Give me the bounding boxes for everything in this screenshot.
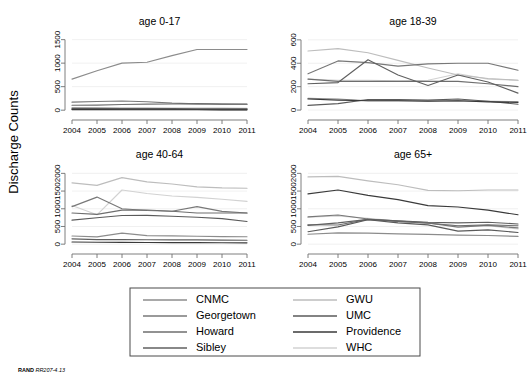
x-tick-label: 2011 (509, 126, 527, 135)
x-tick-label: 2004 (299, 260, 317, 269)
x-tick-label: 2004 (63, 260, 81, 269)
x-tick-label: 2008 (163, 260, 181, 269)
y-tick-label: 0 (53, 107, 62, 112)
y-tick-label: 2000 (53, 164, 62, 182)
legend-border (130, 288, 420, 356)
x-tick-label: 2005 (329, 260, 347, 269)
panel-title: age 40-64 (136, 148, 183, 160)
x-tick-label: 2010 (479, 260, 497, 269)
y-tick-label: 0 (289, 241, 298, 246)
x-tick-label: 2008 (163, 126, 181, 135)
y-tick-label: 1000 (53, 199, 62, 217)
x-tick-label: 2006 (359, 126, 377, 135)
x-tick-label: 2005 (88, 126, 106, 135)
x-tick-label: 2007 (389, 126, 407, 135)
x-tick-label: 2007 (138, 260, 156, 269)
legend-label-cnmc: CNMC (196, 293, 229, 305)
y-tick-label: 1500 (53, 30, 62, 48)
x-tick-label: 2005 (88, 260, 106, 269)
x-tick-label: 2008 (419, 126, 437, 135)
x-tick-label: 2009 (188, 126, 206, 135)
series-line-umc (72, 108, 247, 109)
y-tick-label: 400 (289, 56, 298, 70)
x-tick-label: 2004 (63, 126, 81, 135)
x-tick-label: 2008 (419, 260, 437, 269)
legend-label-gwu: GWU (346, 293, 373, 305)
legend-label-providence: Providence (346, 325, 401, 337)
x-tick-label: 2006 (113, 260, 131, 269)
y-tick-label: 1500 (53, 182, 62, 200)
x-tick-label: 2011 (238, 126, 256, 135)
y-tick-label: 200 (289, 79, 298, 93)
legend-label-howard: Howard (196, 325, 234, 337)
legend-label-georgetown: Georgetown (196, 309, 256, 321)
x-tick-label: 2010 (213, 126, 231, 135)
panel-title: age 18-39 (389, 15, 436, 27)
x-tick-label: 2007 (389, 260, 407, 269)
y-tick-label: 1000 (289, 199, 298, 217)
discharge-counts-figure: Discharge Counts age 0-17050010001500200… (0, 0, 531, 385)
x-tick-label: 2009 (188, 260, 206, 269)
y-tick-label: 0 (289, 107, 298, 112)
x-tick-label: 2011 (509, 260, 527, 269)
y-tick-label: 500 (53, 219, 62, 233)
y-tick-label: 2000 (289, 164, 298, 182)
x-tick-label: 2007 (138, 126, 156, 135)
y-tick-label: 1500 (289, 182, 298, 200)
legend: CNMCGeorgetownHowardSibleyGWUUMCProviden… (130, 288, 420, 356)
x-tick-label: 2009 (449, 126, 467, 135)
legend-label-umc: UMC (346, 309, 371, 321)
credit-brand: RAND (18, 367, 34, 373)
legend-label-sibley: Sibley (196, 341, 226, 353)
x-tick-label: 2004 (299, 126, 317, 135)
x-tick-label: 2011 (238, 260, 256, 269)
credit-id: RR207-4.13 (35, 367, 66, 373)
y-tick-label: 600 (289, 33, 298, 47)
panel-title: age 0-17 (139, 15, 181, 27)
x-tick-label: 2005 (329, 126, 347, 135)
x-tick-label: 2006 (359, 260, 377, 269)
y-tick-label: 500 (53, 79, 62, 93)
y-axis-title: Discharge Counts (6, 90, 21, 194)
y-tick-label: 500 (289, 219, 298, 233)
y-tick-label: 0 (53, 241, 62, 246)
x-tick-label: 2009 (449, 260, 467, 269)
legend-label-whc: WHC (346, 341, 372, 353)
x-tick-label: 2010 (213, 260, 231, 269)
panel-title: age 65+ (394, 148, 432, 160)
y-tick-label: 1000 (53, 54, 62, 72)
figure-credit: RAND RR207-4.13 (18, 367, 66, 373)
x-tick-label: 2006 (113, 126, 131, 135)
x-tick-label: 2010 (479, 126, 497, 135)
